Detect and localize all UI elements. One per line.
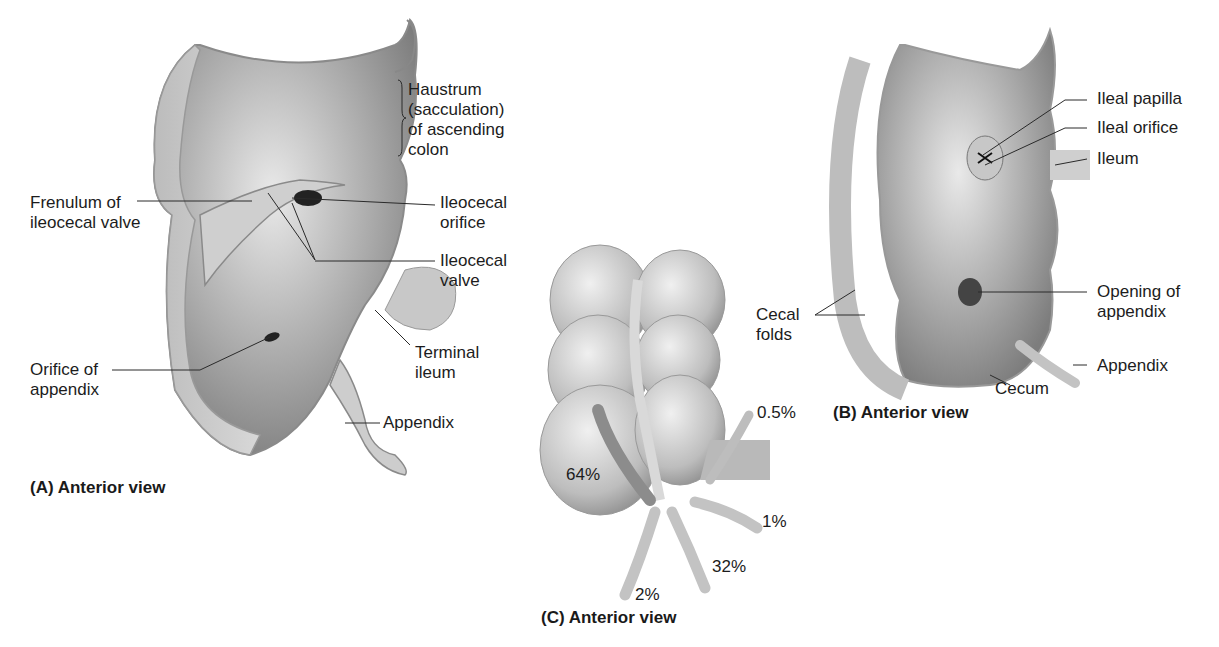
pct-preileal: 0.5% [757, 403, 796, 423]
label-frenulum: Frenulum of ileocecal valve [30, 193, 141, 233]
pct-pelvic: 32% [712, 557, 746, 577]
label-ileal-orifice: Ileal orifice [1097, 118, 1178, 138]
label-cecum: Cecum [995, 379, 1049, 399]
label-ileum: Ileum [1097, 149, 1139, 169]
label-ileocecal-valve: Ileocecal valve [440, 251, 507, 291]
label-appendix-a: Appendix [383, 413, 454, 433]
panel-c-illustration [540, 245, 770, 595]
label-cecal-folds: Cecal folds [756, 305, 799, 345]
caption-panel-c: (C) Anterior view [541, 608, 676, 628]
pct-postileal: 1% [762, 512, 787, 532]
label-ileocecal-orifice: Ileocecal orifice [440, 193, 507, 233]
label-orifice-of-appendix: Orifice of appendix [30, 360, 99, 400]
pct-retrocecal: 64% [566, 465, 600, 485]
caption-panel-b: (B) Anterior view [833, 403, 968, 423]
panel-b-illustration [840, 30, 1090, 390]
label-terminal-ileum: Terminal ileum [415, 343, 479, 383]
pct-subcecal: 2% [635, 585, 660, 605]
label-appendix-b: Appendix [1097, 356, 1168, 376]
label-haustrum: Haustrum (sacculation) of ascending colo… [408, 80, 504, 160]
caption-panel-a: (A) Anterior view [30, 478, 165, 498]
label-opening-of-appendix: Opening of appendix [1097, 282, 1180, 322]
diagram-artwork [0, 0, 1219, 647]
label-ileal-papilla: Ileal papilla [1097, 89, 1182, 109]
